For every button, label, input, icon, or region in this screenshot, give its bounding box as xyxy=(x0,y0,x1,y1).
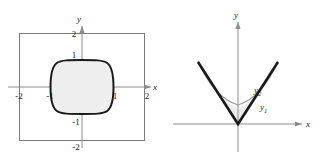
x-tick-label-pos2: 2 xyxy=(145,91,150,101)
squircle-region xyxy=(51,60,114,114)
y-axis-arrow-icon xyxy=(235,22,240,29)
y-axis-label: y xyxy=(233,10,238,20)
figure-pair: x y -2 -1 1 2 2 1 -1 -2 xyxy=(0,0,319,159)
x-axis-arrow-icon xyxy=(295,121,302,126)
y-tick-label-neg1: -1 xyxy=(72,117,80,127)
x-tick-label-neg2: -2 xyxy=(15,91,23,101)
x-axis-arrow-icon xyxy=(144,84,151,89)
y-tick-label-neg2: -2 xyxy=(72,142,80,152)
x-tick-label-neg1: -1 xyxy=(46,91,54,101)
x-axis-label: x xyxy=(152,82,157,92)
y-axis-label: y xyxy=(76,14,81,24)
left-panel-square-and-squircle-plot: x y -2 -1 1 2 2 1 -1 -2 xyxy=(0,0,160,159)
x-tick-label-pos1: 1 xyxy=(113,91,118,101)
y-axis-arrow-icon xyxy=(79,26,84,33)
right-panel-absolute-value-and-parabola-plot: x y y2 y1 xyxy=(160,0,319,159)
y-tick-label-pos1: 1 xyxy=(72,50,77,60)
x-axis-label: x xyxy=(305,119,310,129)
curve-label-y1: y1 xyxy=(259,102,267,114)
y-tick-label-pos2: 2 xyxy=(72,29,77,39)
